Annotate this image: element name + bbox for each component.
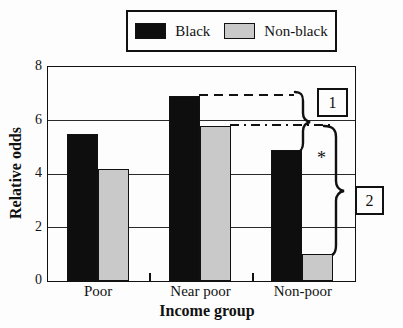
legend-swatch-non-black — [224, 23, 255, 39]
category-label-poor: Poor — [43, 283, 153, 300]
dashed-reference-line-1 — [199, 94, 294, 96]
bar-black-poor — [67, 134, 98, 281]
bar-non-black-non-poor — [302, 254, 333, 281]
x-axis-tick-2 — [252, 273, 254, 281]
category-label-non-poor: Non-poor — [248, 283, 358, 300]
y-tick-label-8: 8 — [18, 58, 42, 74]
annotation-box-2: 2 — [355, 186, 384, 215]
category-label-near-poor: Near poor — [146, 283, 256, 300]
legend-item-non-black: Non-black — [224, 23, 327, 40]
bar-non-black-near-poor — [200, 126, 231, 281]
y-tick-label-2: 2 — [18, 219, 42, 235]
legend-swatch-black — [135, 23, 166, 39]
figure: Black Non-black Relative odds 02468 Poor… — [0, 0, 403, 328]
bar-black-non-poor — [271, 150, 302, 281]
bracket-1-brace — [292, 90, 314, 154]
bracket-2-brace — [321, 124, 347, 260]
x-axis-tick-1 — [149, 273, 151, 281]
annotation-box-1: 1 — [317, 88, 348, 117]
dash-dot-reference-line-2 — [230, 124, 330, 126]
bar-non-black-poor — [98, 169, 129, 281]
annotation-box-1-label: 1 — [329, 94, 337, 112]
legend-label-black: Black — [175, 23, 210, 40]
legend-label-non-black: Non-black — [264, 23, 327, 40]
y-tick-label-0: 0 — [18, 272, 42, 288]
x-axis-title: Income group — [47, 302, 367, 320]
legend: Black Non-black — [126, 10, 337, 52]
y-tick-label-4: 4 — [18, 165, 42, 181]
annotation-box-2-label: 2 — [366, 192, 374, 210]
bar-black-near-poor — [169, 96, 200, 281]
y-tick-label-6: 6 — [18, 112, 42, 128]
legend-item-black: Black — [135, 23, 210, 40]
